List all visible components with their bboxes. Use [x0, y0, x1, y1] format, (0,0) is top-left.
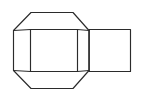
- inner-front-face-fill: [31, 30, 78, 72]
- figure-canvas: [0, 0, 145, 100]
- line-drawing-svg: [0, 0, 145, 100]
- side-box-fill: [89, 30, 131, 72]
- side-box-group: [89, 30, 131, 72]
- inner-front-face-group: [31, 30, 78, 72]
